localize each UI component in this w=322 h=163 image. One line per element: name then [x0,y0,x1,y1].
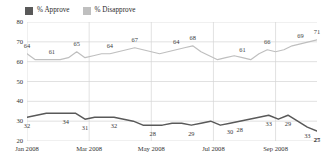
point-label: 67 [132,37,138,43]
legend-entry-disapprove: % Disapprove [83,7,136,15]
series-line-approve [27,113,317,131]
y-axis-tick-label: 60 [16,59,23,66]
y-axis-tick-label: 70 [16,39,23,46]
point-label: 28 [236,127,242,133]
plot-area: 3234313228293028332933272564616564676468… [27,22,317,141]
y-axis: 80706050403020 [0,0,23,163]
point-label: 32 [24,123,30,129]
x-axis: Jan 2008Mar 2008May 2008Jul 2008Sep 2008 [0,146,322,160]
y-axis-tick-label: 20 [16,138,23,145]
point-label: 33 [304,133,310,139]
x-axis-tick-label: Sep 2008 [263,146,288,153]
point-label: 68 [190,35,196,41]
y-axis-tick-label: 50 [16,79,23,86]
y-axis-tick-label: 40 [16,98,23,105]
point-label: 71 [314,29,320,35]
legend-label-approve: % Approve [37,7,70,14]
x-axis-tick-label: May 2008 [138,146,165,153]
x-axis-tick-label: Jan 2008 [15,146,39,153]
point-label: 64 [24,43,30,49]
point-label: 65 [74,41,80,47]
chart-screenshot: % Approve % Disapprove 80706050403020 32… [0,0,322,163]
point-label: 29 [188,131,194,137]
point-label: 29 [285,121,291,127]
point-label: 31 [82,125,88,131]
point-label: 30 [227,129,233,135]
chart-legend: % Approve % Disapprove [25,5,135,17]
approve-swatch [25,7,33,15]
x-axis-tick-label: Mar 2008 [76,146,102,153]
point-label: 61 [239,46,245,52]
legend-label-disapprove: % Disapprove [95,7,136,14]
point-label: 69 [297,33,303,39]
point-label: 64 [173,39,179,45]
point-label: 25 [314,137,320,143]
point-label: 66 [264,39,270,45]
y-axis-tick-label: 30 [16,118,23,125]
point-label: 64 [107,43,113,49]
disapprove-swatch [83,7,91,15]
point-label: 61 [49,48,55,54]
y-axis-tick-label: 80 [16,19,23,26]
point-label: 33 [265,121,271,127]
point-label: 34 [62,119,68,125]
point-label: 28 [149,131,155,137]
point-label: 32 [111,123,117,129]
x-axis-tick-label: Jul 2008 [202,146,225,153]
legend-entry-approve: % Approve [25,7,70,15]
